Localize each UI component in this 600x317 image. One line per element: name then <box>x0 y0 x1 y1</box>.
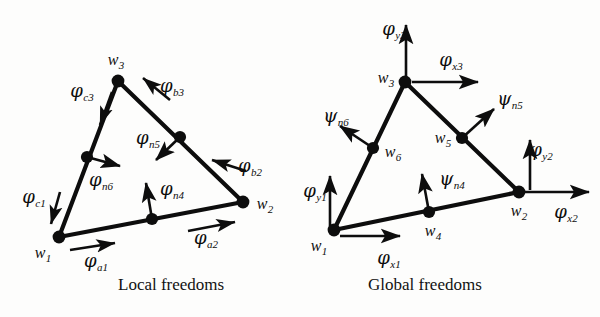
node-local-n4 <box>146 213 158 225</box>
global-normal-arrows <box>340 109 494 212</box>
arrow-psi-n5 <box>462 109 494 138</box>
caption-global-freedoms: Global freedoms <box>368 275 482 295</box>
label-psi-n6: ψn6 <box>323 107 348 128</box>
node-global-w3 <box>399 76 412 89</box>
label-phi-n6: φn6 <box>89 171 113 192</box>
label-global-node-w4: w4 <box>425 223 441 242</box>
label-phi-x3: φx3 <box>439 51 462 72</box>
node-global-w5 <box>456 132 468 144</box>
label-phi-n4: φn4 <box>160 180 184 201</box>
label-global-node-w6: w6 <box>385 144 401 163</box>
global-nodes <box>328 76 526 237</box>
label-phi-b3: φb3 <box>160 77 184 98</box>
label-phi-a1: φa1 <box>84 252 108 273</box>
label-local-node-w3: w3 <box>108 52 124 71</box>
label-phi-b2: φb2 <box>238 157 262 178</box>
label-phi-a2: φa2 <box>194 229 218 250</box>
label-phi-x2: φx2 <box>554 203 577 224</box>
label-global-node-w5: w5 <box>435 130 451 149</box>
label-global-node-w3: w3 <box>378 70 394 89</box>
label-global-node-w1: w1 <box>311 238 327 257</box>
arrow-phi-c1 <box>51 192 60 224</box>
node-global-w2 <box>513 186 526 199</box>
label-local-node-w2: w2 <box>257 196 273 215</box>
node-local-w2 <box>237 196 250 209</box>
node-local-w1 <box>53 231 66 244</box>
node-global-w4 <box>423 206 435 218</box>
arrow-phi-c3 <box>100 92 112 125</box>
figure-dof-diagram: w1 w2 w3 φa1 φa2 φb2 φb3 φc1 φc3 φn4 φn5… <box>0 0 600 317</box>
node-local-n6 <box>81 151 93 163</box>
node-global-w6 <box>367 142 379 154</box>
label-local-node-w1: w1 <box>35 245 51 264</box>
label-psi-n4: ψn4 <box>439 170 464 191</box>
local-tangential-arrows <box>51 78 246 250</box>
label-phi-x1: φx1 <box>377 249 400 270</box>
node-global-w1 <box>328 224 341 237</box>
label-phi-c3: φc3 <box>70 82 93 103</box>
label-phi-c1: φc1 <box>22 188 45 209</box>
caption-local-freedoms: Local freedoms <box>118 275 224 295</box>
label-phi-y2: φy2 <box>529 141 552 162</box>
label-global-node-w2: w2 <box>511 203 527 222</box>
label-phi-y3: φy3 <box>382 20 405 41</box>
node-local-n5 <box>174 131 186 143</box>
label-phi-n5: φn5 <box>136 129 160 150</box>
node-local-w3 <box>112 75 125 88</box>
label-psi-n5: ψn5 <box>497 90 522 111</box>
label-phi-y1: φy1 <box>303 182 326 203</box>
